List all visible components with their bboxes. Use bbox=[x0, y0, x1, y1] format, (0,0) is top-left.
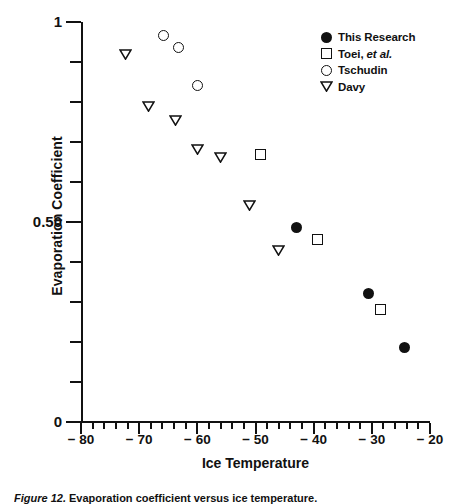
x-tick-label: − 40 bbox=[284, 432, 344, 447]
x-tick bbox=[92, 423, 94, 429]
data-point bbox=[192, 80, 203, 91]
y-tick-label: 0 bbox=[18, 413, 62, 430]
x-tick bbox=[324, 423, 326, 429]
x-tick bbox=[394, 423, 396, 429]
data-point bbox=[119, 49, 132, 60]
x-tick bbox=[220, 423, 222, 429]
x-tick bbox=[231, 423, 233, 429]
x-tick bbox=[127, 423, 129, 429]
data-point bbox=[158, 30, 169, 41]
legend-item: Toei, et al. bbox=[318, 47, 450, 62]
legend-label: Davy bbox=[338, 81, 365, 93]
x-tick-label: − 80 bbox=[51, 432, 111, 447]
data-point bbox=[214, 152, 227, 163]
y-tick bbox=[70, 261, 81, 263]
y-tick bbox=[70, 381, 81, 383]
data-point bbox=[173, 42, 184, 53]
legend-marker-icon bbox=[318, 47, 334, 60]
x-tick bbox=[289, 423, 291, 429]
x-tick bbox=[161, 423, 163, 429]
y-tick bbox=[70, 341, 81, 343]
legend-item: This Research bbox=[318, 30, 450, 45]
data-point bbox=[243, 200, 256, 211]
y-tick bbox=[70, 181, 81, 183]
legend-marker-icon bbox=[318, 64, 334, 77]
x-tick bbox=[266, 423, 268, 429]
data-point bbox=[142, 101, 155, 112]
x-tick-label: − 20 bbox=[400, 432, 454, 447]
x-tick bbox=[115, 423, 117, 429]
x-tick bbox=[336, 423, 338, 429]
y-tick bbox=[70, 141, 81, 143]
x-tick bbox=[185, 423, 187, 429]
data-point bbox=[375, 304, 386, 315]
x-tick bbox=[150, 423, 152, 429]
data-point bbox=[291, 222, 302, 233]
x-tick bbox=[359, 423, 361, 429]
x-tick bbox=[278, 423, 280, 429]
y-tick bbox=[70, 101, 81, 103]
x-tick bbox=[301, 423, 303, 429]
y-tick-label: 1 bbox=[18, 13, 62, 30]
data-point bbox=[191, 144, 204, 155]
legend-item: Tschudin bbox=[318, 63, 450, 78]
y-axis-line bbox=[81, 22, 83, 422]
data-point bbox=[169, 115, 182, 126]
y-tick bbox=[70, 301, 81, 303]
x-tick bbox=[173, 423, 175, 429]
x-axis-title: Ice Temperature bbox=[81, 455, 430, 471]
legend-item: Davy bbox=[318, 80, 450, 95]
data-point bbox=[363, 288, 374, 299]
x-tick bbox=[382, 423, 384, 429]
x-tick bbox=[406, 423, 408, 429]
y-tick bbox=[66, 21, 81, 23]
data-point bbox=[312, 234, 323, 245]
legend-marker-icon bbox=[318, 31, 334, 44]
y-tick bbox=[66, 221, 81, 223]
x-tick-label: − 60 bbox=[167, 432, 227, 447]
x-tick-label: − 50 bbox=[226, 432, 286, 447]
data-point bbox=[272, 245, 285, 256]
x-tick bbox=[417, 423, 419, 429]
x-tick-label: − 30 bbox=[342, 432, 402, 447]
x-tick bbox=[208, 423, 210, 429]
x-tick bbox=[103, 423, 105, 429]
x-tick bbox=[243, 423, 245, 429]
data-point bbox=[399, 342, 410, 353]
data-point bbox=[255, 149, 266, 160]
figure-caption: Figure 12. Evaporation coefficient versu… bbox=[14, 492, 444, 504]
x-tick-label: − 70 bbox=[109, 432, 169, 447]
legend-label: Tschudin bbox=[338, 64, 387, 76]
legend-label: Toei, et al. bbox=[338, 48, 392, 60]
y-tick bbox=[66, 421, 81, 423]
legend-label: This Research bbox=[338, 31, 415, 43]
legend-marker-icon bbox=[318, 80, 334, 93]
y-axis-title: Evaporation Coefficient bbox=[49, 91, 65, 341]
y-tick bbox=[70, 61, 81, 63]
x-tick bbox=[348, 423, 350, 429]
chart-legend: This ResearchToei, et al.TschudinDavy bbox=[318, 30, 450, 96]
